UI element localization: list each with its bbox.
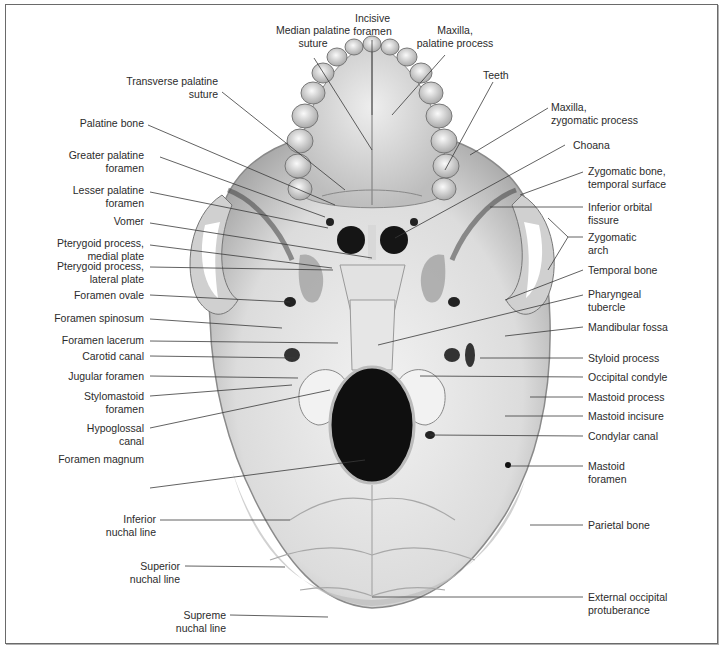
label-maxilla-zygomatic-process: Maxilla, zygomatic process: [551, 101, 638, 126]
label-mastoid-process: Mastoid process: [588, 391, 664, 404]
label-pterygoid-lateral-plate: Pterygoid process, lateral plate: [40, 260, 144, 285]
label-superior-nuchal-line: Superior nuchal line: [120, 560, 180, 585]
label-greater-palatine-foramen: Greater palatine foramen: [40, 149, 144, 174]
label-zygomatic-arch: Zygomatic arch: [588, 231, 636, 256]
foramen-magnum-shape: [330, 367, 414, 483]
label-foramen-ovale: Foramen ovale: [40, 289, 144, 302]
label-choana: Choana: [573, 139, 610, 152]
label-temporal-bone: Temporal bone: [588, 264, 657, 277]
label-foramen-magnum: Foramen magnum: [30, 453, 144, 466]
label-maxilla-palatine-process: Maxilla, palatine process: [405, 24, 505, 49]
label-carotid-canal: Carotid canal: [30, 350, 144, 363]
label-foramen-lacerum: Foramen lacerum: [30, 334, 144, 347]
label-vomer: Vomer: [40, 215, 144, 228]
label-zygomatic-bone-temporal-surface: Zygomatic bone, temporal surface: [588, 165, 666, 190]
label-styloid-process: Styloid process: [588, 352, 659, 365]
label-condylar-canal: Condylar canal: [588, 430, 658, 443]
label-palatine-bone: Palatine bone: [40, 117, 144, 130]
label-transverse-palatine-suture: Transverse palatine suture: [100, 75, 218, 100]
label-parietal-bone: Parietal bone: [588, 519, 650, 532]
label-mastoid-incisure: Mastoid incisure: [588, 410, 664, 423]
label-supreme-nuchal-line: Supreme nuchal line: [160, 609, 226, 634]
label-external-occipital-protuberance: External occipital protuberance: [588, 591, 667, 616]
label-incisive-foramen: Incisive foramen: [345, 12, 400, 37]
label-stylomastoid-foramen: Stylomastoid foramen: [30, 390, 144, 415]
label-hypoglossal-canal: Hypoglossal canal: [30, 422, 144, 447]
label-foramen-spinosum: Foramen spinosum: [30, 312, 144, 325]
label-pterygoid-medial-plate: Pterygoid process, medial plate: [40, 237, 144, 262]
basilar-part: [350, 300, 395, 370]
label-lesser-palatine-foramen: Lesser palatine foramen: [40, 184, 144, 209]
label-mastoid-foramen: Mastoid foramen: [588, 460, 627, 485]
label-jugular-foramen: Jugular foramen: [30, 370, 144, 383]
label-inferior-orbital-fissure: Inferior orbital fissure: [588, 201, 652, 226]
label-pharyngeal-tubercle: Pharyngeal tubercle: [588, 288, 641, 313]
label-teeth: Teeth: [483, 69, 509, 82]
label-occipital-condyle: Occipital condyle: [588, 371, 667, 384]
label-mandibular-fossa: Mandibular fossa: [588, 321, 668, 334]
label-inferior-nuchal-line: Inferior nuchal line: [100, 513, 156, 538]
